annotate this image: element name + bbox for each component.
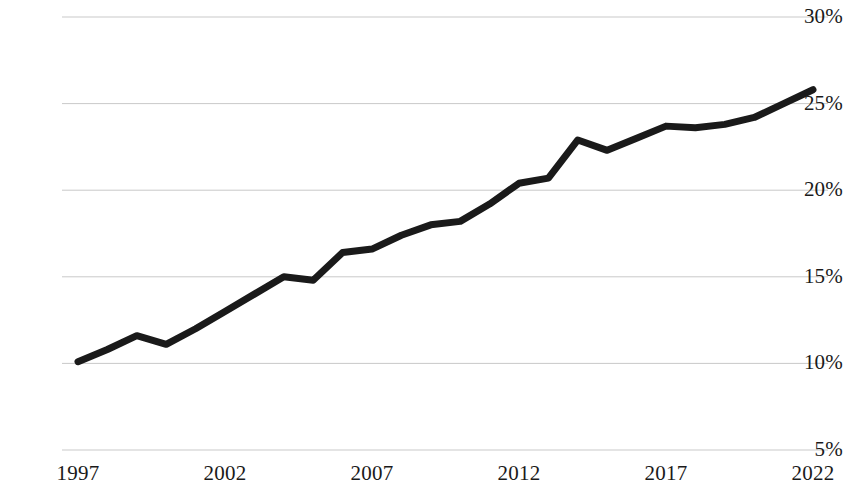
y-axis-tick-label: 5% [787,439,843,460]
y-axis-tick-label: 30% [787,6,843,27]
x-axis-tick-label: 2022 [768,462,843,485]
y-axis-tick-label: 15% [787,266,843,287]
x-axis-tick-label: 2017 [621,462,711,485]
line-chart: 30% 25% 20% 15% 10% 5% 1997 2002 2007 20… [0,0,843,495]
x-axis-tick-label: 2007 [327,462,417,485]
y-axis-tick-label: 10% [787,352,843,373]
y-axis-tick-label: 20% [787,179,843,200]
y-axis-tick-label: 25% [787,93,843,114]
x-axis-tick-label: 2002 [180,462,270,485]
x-axis-tick-label: 2012 [474,462,564,485]
x-axis-tick-label: 1997 [33,462,123,485]
axis-labels-layer: 30% 25% 20% 15% 10% 5% 1997 2002 2007 20… [0,0,843,495]
